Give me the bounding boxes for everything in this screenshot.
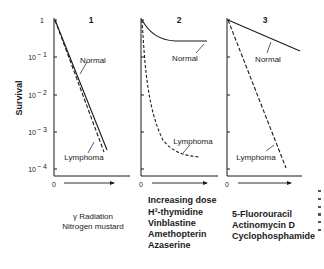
- panel-2-lymphoma-label: Lymphoma: [173, 137, 213, 146]
- svg-text:− 1: − 1: [37, 51, 47, 58]
- agent-actinomycin-d: Actinomycin D: [232, 220, 315, 231]
- panel-1-normal-label: Normal: [80, 56, 106, 65]
- x-axis-label-increasing-dose: Increasing dose: [148, 195, 217, 206]
- panel-1-title: 1: [89, 15, 94, 25]
- svg-text:− 4: − 4: [37, 163, 47, 170]
- svg-text:− 2: − 2: [37, 89, 47, 96]
- agent-vinblastine: Vinblastine: [148, 218, 217, 229]
- panel-2-normal-curve: [142, 20, 207, 41]
- svg-text:10: 10: [28, 92, 36, 99]
- panel-2-agents: Increasing dose H³-thymidine Vinblastine…: [148, 195, 217, 251]
- agent-h3-thymidine: H³-thymidine: [148, 207, 217, 218]
- panel-3-lymphoma-label: Lymphoma: [236, 153, 276, 162]
- panel-2: 2 Normal Lymphoma 0: [139, 15, 218, 188]
- agent-gamma-radiation: γ Radiation: [62, 212, 124, 222]
- svg-text:− 3: − 3: [37, 126, 47, 133]
- panel-1-x-zero: 0: [52, 181, 56, 188]
- agent-amethopterin: Amethopterin: [148, 229, 217, 240]
- svg-text:10: 10: [28, 54, 36, 61]
- panel-3-agents: 5-Fluorouracil Actinomycin D Cyclophosph…: [232, 209, 315, 242]
- panel-3: 3 Normal Lymphoma 0: [225, 15, 302, 188]
- agent-nitrogen-mustard: Nitrogen mustard: [62, 222, 124, 232]
- svg-text:10: 10: [28, 166, 36, 173]
- agent-cyclophosphamide: Cyclophosphamide: [232, 231, 315, 242]
- svg-text:1: 1: [40, 17, 44, 24]
- agent-5-fluorouracil: 5-Fluorouracil: [232, 209, 315, 220]
- panel-2-axes: [141, 18, 218, 176]
- panel-2-normal-label: Normal: [172, 54, 198, 63]
- panel-1-lymphoma-label: Lymphoma: [64, 153, 104, 162]
- y-tick-labels: 1 10 − 1 10 − 2 10 − 3 10 − 4: [28, 17, 47, 173]
- agent-azaserine: Azaserine: [148, 240, 217, 251]
- panel-2-title: 2: [177, 15, 182, 25]
- panel-3-title: 3: [263, 15, 268, 25]
- panel-1: 1 Normal Lymphoma 0: [52, 15, 130, 188]
- y-axis-label: Survival: [14, 80, 24, 115]
- panel-3-normal-label: Normal: [255, 55, 281, 64]
- panel-3-x-zero: 0: [225, 181, 229, 188]
- svg-text:10: 10: [28, 129, 36, 136]
- panel-1-agents: γ Radiation Nitrogen mustard: [62, 212, 124, 232]
- panel-1-lymphoma-curve: [55, 20, 104, 152]
- panel-3-lymphoma-curve: [228, 20, 286, 168]
- panel-2-x-zero: 0: [139, 181, 143, 188]
